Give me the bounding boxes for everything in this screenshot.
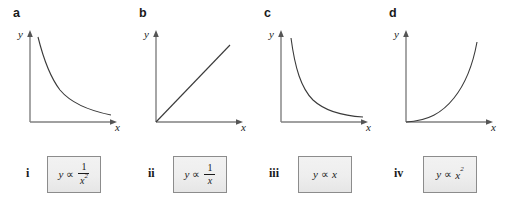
proportional-icon: ∝ <box>66 169 74 180</box>
plot-a: y x <box>0 28 125 132</box>
panel-letter-b: b <box>139 6 147 20</box>
plot-c: y x <box>251 28 376 132</box>
equation-iv-rhs: x2 <box>455 169 463 181</box>
equation-ii-text: y ∝ 1 x <box>185 163 216 186</box>
numeral-iv: iv <box>394 166 403 181</box>
equation-iv-lhs: y <box>436 169 441 180</box>
equation-iv-exponent: 2 <box>460 165 464 173</box>
y-axis-label-d: y <box>393 28 399 40</box>
equation-box-iii[interactable]: y ∝ x <box>298 156 352 193</box>
x-axis-label-a: x <box>114 121 120 132</box>
panel-letter-d: d <box>389 6 397 20</box>
equation-iv-text: y ∝ x2 <box>436 169 463 181</box>
y-axis-label-b: y <box>143 28 149 40</box>
panel-letter-a: a <box>13 6 20 20</box>
plot-b: y x <box>126 28 251 132</box>
y-axis-label-a: y <box>17 28 23 40</box>
axis-lines-a <box>27 30 117 125</box>
equation-ii-numerator: 1 <box>207 163 212 174</box>
equation-i-lhs: y <box>59 169 64 180</box>
panel-letter-c: c <box>264 6 271 20</box>
curve-a <box>38 37 111 115</box>
plot-d: y x <box>376 28 501 132</box>
proportional-icon: ∝ <box>444 169 452 180</box>
proportional-icon: ∝ <box>321 169 329 180</box>
equation-iii-text: y ∝ x <box>313 169 337 180</box>
equation-box-ii[interactable]: y ∝ 1 x <box>173 156 227 193</box>
panel-b: b y x ii y ∝ 1 x <box>126 0 251 206</box>
x-axis-label-b: x <box>240 121 246 132</box>
axis-lines-d <box>403 30 493 125</box>
curve-d <box>406 42 477 122</box>
equation-i-denominator: x2 <box>80 174 88 186</box>
panel-d: d y x iv y ∝ x2 <box>376 0 501 206</box>
curve-c <box>291 38 363 117</box>
x-axis-label-d: x <box>490 121 496 132</box>
curve-b <box>156 45 230 122</box>
panel-c: c y x iii y ∝ x <box>251 0 376 206</box>
proportionality-matching-figure: a y x i y ∝ 1 x2 <box>0 0 514 206</box>
equation-ii-fraction: 1 x <box>204 163 215 186</box>
equation-iii-lhs: y <box>313 169 318 180</box>
panel-a: a y x i y ∝ 1 x2 <box>0 0 125 206</box>
numeral-ii: ii <box>148 166 155 181</box>
equation-i-exponent: 2 <box>84 172 88 180</box>
equation-box-iv[interactable]: y ∝ x2 <box>423 156 477 193</box>
proportional-icon: ∝ <box>192 169 200 180</box>
numeral-i: i <box>26 166 29 181</box>
y-axis-label-c: y <box>268 28 274 40</box>
equation-i-fraction: 1 x2 <box>78 162 89 186</box>
equation-iii-rhs: x <box>332 169 337 180</box>
equation-box-i[interactable]: y ∝ 1 x2 <box>47 156 101 193</box>
equation-ii-denominator: x <box>208 175 212 186</box>
x-axis-label-c: x <box>365 121 371 132</box>
equation-i-text: y ∝ 1 x2 <box>59 162 90 186</box>
numeral-iii: iii <box>269 166 279 181</box>
equation-ii-lhs: y <box>185 169 190 180</box>
